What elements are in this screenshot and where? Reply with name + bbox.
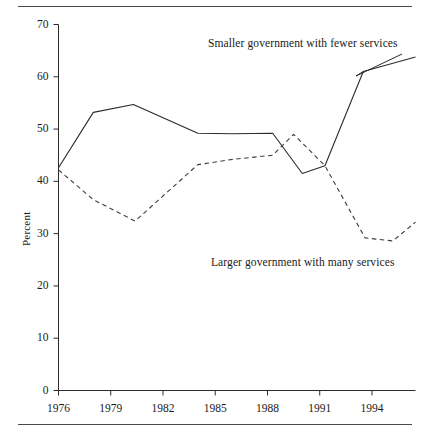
y-tick-label: 0 xyxy=(7,385,49,397)
chart-figure: 010203040506070 197619791982198519881991… xyxy=(0,0,429,433)
x-tick-label: 1985 xyxy=(187,403,243,415)
annotation-smaller-government: Smaller government with fewer services xyxy=(208,37,398,49)
y-tick-label: 70 xyxy=(7,19,49,31)
x-axis-ticks xyxy=(59,391,372,396)
x-tick-label: 1994 xyxy=(344,403,400,415)
line-chart-plot xyxy=(0,0,429,433)
series-line-larger-government xyxy=(59,134,416,241)
y-tick-label: 40 xyxy=(7,175,49,187)
series-line-smaller-government xyxy=(59,57,416,174)
y-axis-ticks xyxy=(54,25,59,391)
annotation-larger-government: Larger government with many services xyxy=(211,256,395,268)
y-tick-label: 10 xyxy=(7,332,49,344)
leader-line-upper xyxy=(356,54,402,76)
x-tick-label: 1976 xyxy=(31,403,87,415)
x-tick-label: 1991 xyxy=(292,403,348,415)
x-tick-label: 1988 xyxy=(239,403,295,415)
y-tick-label: 50 xyxy=(7,123,49,135)
y-tick-label: 20 xyxy=(7,280,49,292)
chart-axes xyxy=(54,25,416,396)
annotation-leader-lines xyxy=(356,54,402,76)
x-tick-label: 1982 xyxy=(135,403,191,415)
chart-series xyxy=(59,57,416,241)
y-tick-label: 60 xyxy=(7,71,49,83)
x-tick-label: 1979 xyxy=(83,403,139,415)
y-axis-title: Percent xyxy=(20,212,32,246)
